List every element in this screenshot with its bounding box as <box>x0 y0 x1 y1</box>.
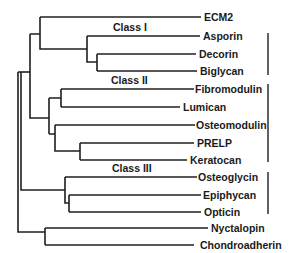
clade-ecm2-class1 <box>30 17 87 49</box>
leaf-lines <box>40 17 208 245</box>
leaf-label-chondroadherin: Chondroadherin <box>200 239 282 251</box>
leaf-labels: ECM2 Asporin Decorin Biglycan Fibromodul… <box>183 11 282 251</box>
leaf-label-osteoglycin: Osteoglycin <box>198 171 258 183</box>
class-labels: Class I Class II Class III <box>111 21 152 174</box>
leaf-label-decorin: Decorin <box>199 48 238 60</box>
leaf-label-lumican: Lumican <box>183 101 226 113</box>
leaf-label-ecm2: ECM2 <box>204 11 233 23</box>
class-label-1: Class I <box>113 21 147 33</box>
class-label-3: Class III <box>112 162 152 174</box>
leaf-label-prelp: PRELP <box>197 137 232 149</box>
clade-class1 <box>87 36 97 71</box>
leaf-label-epiphycan: Epiphycan <box>203 189 256 201</box>
leaf-label-biglycan: Biglycan <box>200 65 244 77</box>
main-clade <box>18 72 65 190</box>
clade-class3 <box>65 177 69 212</box>
leaf-label-keratocan: Keratocan <box>190 154 241 166</box>
root-branch <box>18 72 45 232</box>
branches <box>18 17 97 245</box>
leaf-label-asporin: Asporin <box>203 30 243 42</box>
leaf-label-fibromodulin: Fibromodulin <box>195 83 262 95</box>
upper-clade <box>21 34 49 118</box>
class-label-2: Class II <box>111 74 148 86</box>
leaf-label-osteomodulin: Osteomodulin <box>196 119 267 131</box>
leaf-label-nyctalopin: Nyctalopin <box>211 222 265 234</box>
leaf-label-opticin: Opticin <box>204 206 240 218</box>
dendrogram: ECM2 Asporin Decorin Biglycan Fibromodul… <box>0 0 295 253</box>
